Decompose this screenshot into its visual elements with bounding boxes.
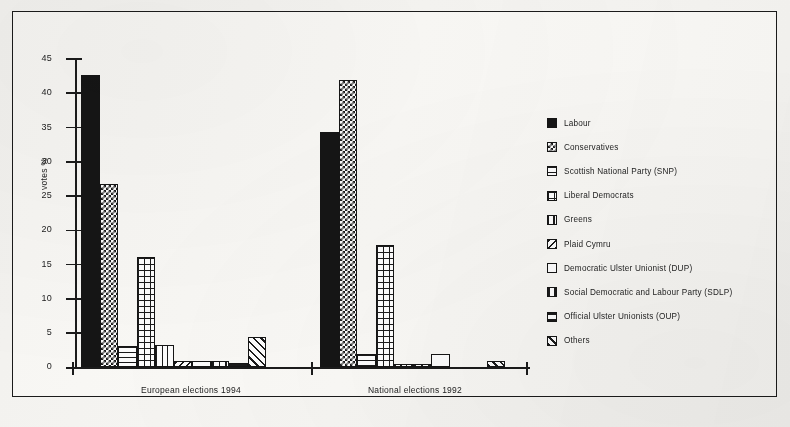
- tick-mark: [66, 195, 82, 197]
- tick-mark: [66, 92, 82, 94]
- bar: [413, 364, 432, 367]
- bar: [487, 361, 506, 368]
- tick-mark: [66, 332, 82, 334]
- legend-item-3[interactable]: Liberal Democrats: [547, 184, 771, 208]
- bar: [357, 354, 376, 367]
- bar: [174, 361, 193, 368]
- tick-label: 15: [42, 259, 52, 270]
- legend-swatch-icon: [547, 312, 557, 322]
- group-tick-2: [526, 362, 528, 375]
- legend-swatch-icon: [547, 166, 557, 176]
- bar: [155, 345, 174, 367]
- category-label-1: National elections 1992: [368, 385, 462, 395]
- group-tick-1: [311, 362, 313, 375]
- tick-mark: [66, 127, 82, 129]
- tick-label: 35: [42, 122, 52, 133]
- scanned-page: votes % 051015202530354045 European elec…: [0, 0, 790, 427]
- bar: [100, 184, 119, 368]
- bar: [431, 354, 450, 367]
- legend-label: Others: [564, 336, 590, 345]
- legend-label: Democratic Ulster Unionist (DUP): [564, 264, 692, 273]
- bar: [339, 80, 358, 367]
- tick-label: 10: [42, 293, 52, 304]
- tick-mark: [66, 367, 82, 369]
- legend-item-7[interactable]: Social Democratic and Labour Party (SDLP…: [547, 280, 771, 304]
- legend-swatch-icon: [547, 142, 557, 152]
- bar: [320, 132, 339, 368]
- legend-swatch-icon: [547, 191, 557, 201]
- group-tick-0: [72, 362, 74, 375]
- legend-item-1[interactable]: Conservatives: [547, 135, 771, 159]
- figure-frame: votes % 051015202530354045 European elec…: [12, 11, 777, 397]
- bar: [376, 245, 395, 367]
- legend-label: Official Ulster Unionists (OUP): [564, 312, 680, 321]
- legend-item-6[interactable]: Democratic Ulster Unionist (DUP): [547, 256, 771, 280]
- legend-label: Plaid Cymru: [564, 240, 611, 249]
- legend-label: Liberal Democrats: [564, 191, 634, 200]
- legend-swatch-icon: [547, 215, 557, 225]
- bar: [81, 75, 100, 368]
- category-label-0: European elections 1994: [141, 385, 241, 395]
- bar: [211, 361, 230, 368]
- tick-mark: [66, 161, 82, 163]
- bar: [229, 363, 248, 368]
- tick-mark: [66, 58, 82, 60]
- legend-label: Greens: [564, 215, 592, 224]
- legend-item-2[interactable]: Scottish National Party (SNP): [547, 159, 771, 183]
- legend-item-4[interactable]: Greens: [547, 208, 771, 232]
- legend-item-8[interactable]: Official Ulster Unionists (OUP): [547, 305, 771, 329]
- tick-label: 25: [42, 190, 52, 201]
- legend-label: Scottish National Party (SNP): [564, 167, 677, 176]
- bar: [137, 257, 156, 367]
- legend-swatch-icon: [547, 263, 557, 273]
- legend-label: Conservatives: [564, 143, 618, 152]
- bar: [192, 361, 211, 368]
- legend-swatch-icon: [547, 239, 557, 249]
- bar: [394, 364, 413, 367]
- tick-label: 45: [42, 53, 52, 64]
- tick-label: 5: [47, 327, 52, 338]
- legend-label: Social Democratic and Labour Party (SDLP…: [564, 288, 732, 297]
- bar: [248, 337, 267, 367]
- tick-mark: [66, 264, 82, 266]
- tick-label: 20: [42, 224, 52, 235]
- legend-item-0[interactable]: Labour: [547, 111, 771, 135]
- plot-area: 051015202530354045 European elections 19…: [75, 59, 530, 369]
- tick-label: 30: [42, 156, 52, 167]
- chart-legend: LabourConservativesScottish National Par…: [547, 111, 771, 353]
- tick-mark: [66, 230, 82, 232]
- tick-mark: [66, 298, 82, 300]
- legend-swatch-icon: [547, 287, 557, 297]
- legend-label: Labour: [564, 119, 591, 128]
- legend-swatch-icon: [547, 336, 557, 346]
- legend-swatch-icon: [547, 118, 557, 128]
- y-axis-line: [75, 59, 77, 369]
- tick-label: 0: [47, 361, 52, 372]
- tick-label: 40: [42, 87, 52, 98]
- x-axis-line: [66, 367, 530, 369]
- bar: [118, 346, 137, 367]
- legend-item-9[interactable]: Others: [547, 329, 771, 353]
- legend-item-5[interactable]: Plaid Cymru: [547, 232, 771, 256]
